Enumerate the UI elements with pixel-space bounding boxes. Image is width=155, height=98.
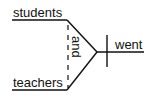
subject-word-students: students [13, 5, 63, 20]
sentence-diagram: students teachers and went [0, 0, 155, 98]
diagram-canvas: students teachers and went [0, 0, 155, 98]
subject-word-teachers: teachers [13, 75, 63, 90]
conjunction-word-and: and [69, 36, 84, 58]
predicate-word-went: went [114, 37, 143, 52]
